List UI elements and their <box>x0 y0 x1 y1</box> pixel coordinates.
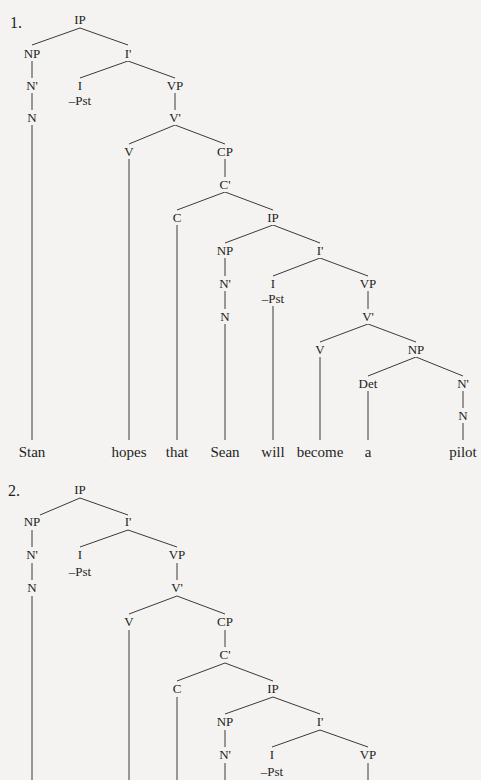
tree-node-label: CP <box>217 144 233 159</box>
tree-branch <box>416 357 463 376</box>
tree-branch <box>273 697 320 714</box>
tree-node-label: I' <box>125 514 132 529</box>
tree-branch <box>320 258 368 276</box>
terminal-word: Stan <box>19 444 46 460</box>
tree-node-label: –Pst <box>261 291 285 306</box>
terminal-word: that <box>166 444 189 460</box>
tree-node-label: IP <box>267 210 279 225</box>
tree-node-label: V' <box>169 110 181 125</box>
tree-branch <box>273 225 320 243</box>
tree-node-label: N <box>220 309 230 324</box>
tree-node-label: NP <box>24 46 41 61</box>
tree-branch <box>368 357 416 376</box>
tree-node-label: V <box>124 614 134 629</box>
tree-node-label: –Pst <box>68 93 92 108</box>
tree-branch <box>320 324 368 342</box>
tree-branch <box>225 697 273 714</box>
terminal-word: a <box>365 444 372 460</box>
terminal-word: become <box>297 444 344 460</box>
tree-node-label: –Pst <box>68 564 92 579</box>
tree-node-label: C' <box>219 647 230 662</box>
tree-node-label: V' <box>171 580 183 595</box>
tree-node-label: N <box>27 580 37 595</box>
tree-node-label: I <box>270 747 274 762</box>
tree-node-label: NP <box>217 243 234 258</box>
tree-node-label: C <box>173 210 182 225</box>
tree-branch <box>40 498 80 515</box>
example-number: 1. <box>10 14 22 31</box>
tree-node-label: Det <box>359 376 378 391</box>
tree-node-label: VP <box>169 547 186 562</box>
tree-node-label: N' <box>26 547 38 562</box>
tree-node-label: V' <box>362 309 374 324</box>
tree-branch <box>175 125 225 144</box>
tree-branch <box>129 596 177 614</box>
tree-branch <box>128 61 175 78</box>
terminal-word: pilot <box>449 444 477 460</box>
syntax-tree-figure: 1.IPNPI'N'I–PstVPNV'VCPC'CIPNPI'N'I–PstV… <box>0 0 481 780</box>
tree-branch <box>177 663 225 681</box>
tree-branch <box>273 258 320 276</box>
syntax-tree-2: 2.IPNPI'N'I–PstVPNV'VCPC'CIPNPI'N'I–PstV… <box>8 482 382 780</box>
tree-branch <box>177 192 225 210</box>
tree-branch <box>128 530 177 547</box>
tree-node-label: IP <box>74 12 86 27</box>
tree-node-label: I <box>78 78 82 93</box>
tree-node-label: –Pst <box>260 764 284 779</box>
tree-branch <box>368 324 416 342</box>
tree-branch <box>225 663 273 681</box>
tree-node-label: IP <box>267 681 279 696</box>
tree-node-label: I <box>78 547 82 562</box>
tree-node-label: C' <box>219 177 230 192</box>
tree-node-label: I' <box>317 714 324 729</box>
tree-branch <box>80 498 128 515</box>
tree-node-label: N <box>458 408 468 423</box>
tree-node-label: VP <box>360 276 377 291</box>
tree-node-label: NP <box>408 342 425 357</box>
terminal-word: hopes <box>112 444 147 460</box>
tree-branch <box>177 596 225 614</box>
terminal-word: Sean <box>210 444 240 460</box>
tree-branch <box>225 225 273 243</box>
syntax-tree-1: 1.IPNPI'N'I–PstVPNV'VCPC'CIPNPI'N'I–PstV… <box>10 12 478 460</box>
tree-branch <box>129 125 175 144</box>
tree-node-label: C <box>173 681 182 696</box>
tree-branch <box>80 61 128 78</box>
tree-branch <box>80 530 128 547</box>
tree-node-label: IP <box>74 482 86 497</box>
tree-node-label: I' <box>317 243 324 258</box>
tree-branch <box>32 28 80 45</box>
tree-node-label: I' <box>125 46 132 61</box>
tree-branch <box>320 730 368 747</box>
tree-node-label: VP <box>167 78 184 93</box>
tree-branch <box>225 192 273 210</box>
tree-node-label: I <box>271 276 275 291</box>
tree-node-label: N' <box>457 376 469 391</box>
tree-node-label: V <box>124 144 134 159</box>
example-number: 2. <box>8 482 20 499</box>
tree-branch <box>272 730 320 747</box>
tree-node-label: NP <box>217 714 234 729</box>
tree-branch <box>80 28 128 45</box>
tree-node-label: V <box>315 342 325 357</box>
tree-node-label: N' <box>26 78 38 93</box>
tree-node-label: N' <box>219 276 231 291</box>
tree-node-label: N' <box>219 747 231 762</box>
tree-node-label: VP <box>360 747 377 762</box>
tree-node-label: N <box>27 110 37 125</box>
tree-node-label: NP <box>24 514 41 529</box>
tree-node-label: CP <box>217 614 233 629</box>
terminal-word: will <box>261 444 284 460</box>
